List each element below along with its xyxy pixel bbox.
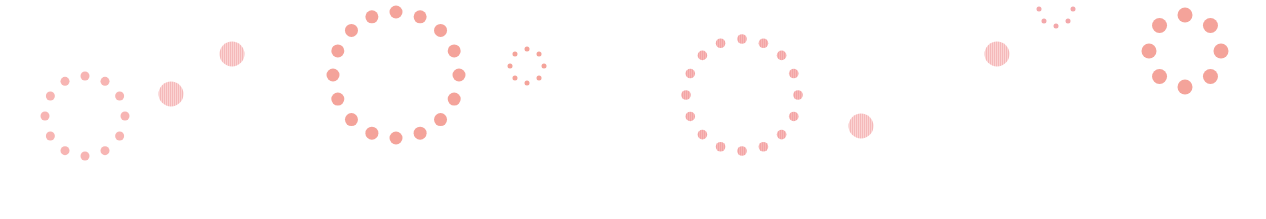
- ring-dot: [512, 51, 517, 56]
- ring-dot: [537, 51, 542, 56]
- ring-dot: [41, 112, 50, 121]
- ring-dot: [434, 24, 447, 37]
- striped-circle-4: [985, 42, 1010, 67]
- ring-dot: [537, 76, 542, 81]
- ring-dot: [737, 34, 747, 44]
- ring-dot: [101, 77, 110, 86]
- ring-dot: [508, 64, 513, 69]
- ring-dot: [685, 69, 695, 79]
- ring-dot: [414, 10, 427, 23]
- ring-dot: [365, 10, 378, 23]
- background: [0, 0, 1266, 219]
- ring-dot: [1203, 18, 1218, 33]
- ring-dot: [448, 44, 461, 57]
- ring-dot: [81, 152, 90, 161]
- ring-dot: [81, 72, 90, 81]
- ring-dot: [1037, 7, 1042, 12]
- decorative-dot-rings-canvas: [0, 0, 1266, 219]
- ring-dot: [1152, 18, 1167, 33]
- ring-dot: [698, 130, 708, 140]
- ring-dot: [115, 92, 124, 101]
- ring-dot: [327, 69, 340, 82]
- ring-dot: [414, 127, 427, 140]
- striped-circle-1: [220, 42, 245, 67]
- ring-dot: [390, 6, 403, 19]
- ring-dot: [525, 47, 530, 52]
- ring-dot: [448, 93, 461, 106]
- ring-dot: [789, 69, 799, 79]
- ring-dot: [46, 92, 55, 101]
- ring-dot: [716, 38, 726, 48]
- ring-dot: [777, 51, 787, 61]
- ring-dot: [61, 77, 70, 86]
- ring-dot: [365, 127, 378, 140]
- striped-circle-3: [849, 114, 874, 139]
- striped-circle-2: [159, 82, 184, 107]
- ring-dot: [101, 146, 110, 155]
- ring-dot: [793, 90, 803, 100]
- ring-dot: [1041, 19, 1046, 24]
- ring-dot: [789, 112, 799, 122]
- ring-dot: [345, 24, 358, 37]
- ring-dot: [453, 69, 466, 82]
- ring-dot: [331, 44, 344, 57]
- ring-dot: [331, 93, 344, 106]
- ring-dot: [121, 112, 130, 121]
- ring-dot: [512, 76, 517, 81]
- ring-dot: [115, 132, 124, 141]
- ring-dot: [698, 51, 708, 61]
- ring-dot: [1054, 24, 1059, 29]
- ring-dot: [1071, 7, 1076, 12]
- ring-dot: [681, 90, 691, 100]
- ring-dot: [390, 132, 403, 145]
- ring-dot: [685, 112, 695, 122]
- ring-dot: [737, 146, 747, 156]
- ring-dot: [46, 132, 55, 141]
- ring-dot: [1152, 69, 1167, 84]
- ring-dot: [777, 130, 787, 140]
- ring-dot: [1178, 80, 1193, 95]
- ring-dot: [61, 146, 70, 155]
- ring-dot: [1178, 8, 1193, 23]
- ring-dot: [1203, 69, 1218, 84]
- ring-dot: [434, 113, 447, 126]
- ring-dot: [759, 142, 769, 152]
- ring-dot: [542, 64, 547, 69]
- ring-dot: [1142, 44, 1157, 59]
- ring-dot: [1214, 44, 1229, 59]
- ring-dot: [525, 81, 530, 86]
- ring-dot: [345, 113, 358, 126]
- ring-dot: [716, 142, 726, 152]
- ring-dot: [759, 38, 769, 48]
- ring-dot: [1066, 19, 1071, 24]
